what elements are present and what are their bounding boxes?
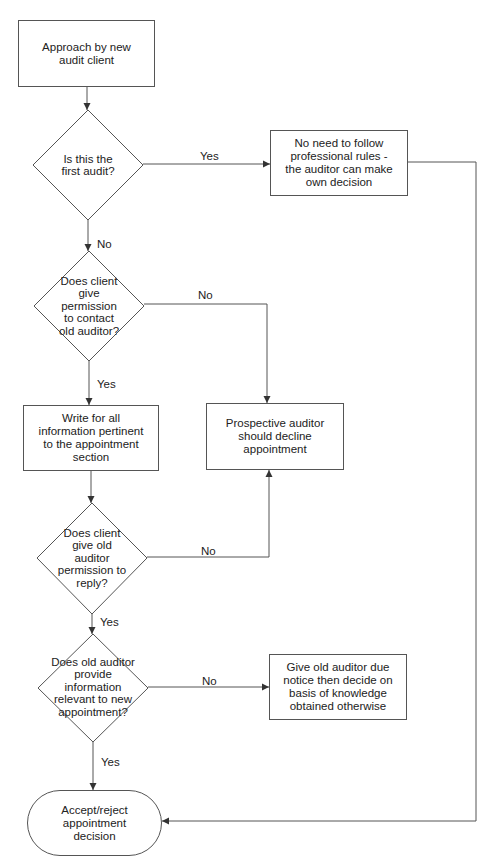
edge-label-provide-info-yes: Yes [101, 756, 120, 768]
decline-box: Prospective auditor should decline appoi… [206, 403, 344, 470]
decline-label: Prospective auditor should decline appoi… [220, 417, 330, 456]
start-box: Approach by new audit client [18, 20, 155, 87]
decision-first-audit-label: Is this the first audit? [57, 153, 119, 178]
decision-first-audit: Is this the first audit? [48, 145, 128, 185]
edge-label-permission-contact-yes: Yes [97, 378, 116, 390]
decision-provide-info-label: Does old auditor provide information rel… [45, 656, 141, 719]
write-info-box: Write for all information pertinent to t… [23, 405, 159, 471]
edge-label-permission-reply-no: No [201, 545, 216, 557]
start-label: Approach by new audit client [42, 41, 132, 67]
end-terminal: Accept/reject appointment decision [27, 790, 162, 856]
no-rules-box: No need to follow professional rules - t… [270, 130, 408, 196]
edge-label-first-audit-no: No [97, 238, 112, 250]
give-notice-box: Give old auditor due notice then decide … [269, 654, 407, 720]
decision-permission-reply: Does client give old auditor permission … [47, 528, 137, 588]
decision-permission-contact-label: Does client give permission to contact o… [56, 275, 122, 338]
write-info-label: Write for all information pertinent to t… [34, 412, 148, 464]
give-notice-label: Give old auditor due notice then decide … [280, 661, 396, 713]
decision-provide-info: Does old auditor provide information rel… [43, 654, 143, 720]
edge-label-permission-contact-no: No [198, 289, 213, 301]
decision-permission-contact: Does client give permission to contact o… [49, 271, 129, 341]
edge-label-provide-info-no: No [202, 675, 217, 687]
decision-permission-reply-label: Does client give old auditor permission … [54, 527, 130, 590]
edge-label-permission-reply-yes: Yes [100, 616, 119, 628]
end-label: Accept/reject appointment decision [57, 804, 132, 843]
edge-label-first-audit-yes: Yes [200, 150, 219, 162]
no-rules-label: No need to follow professional rules - t… [281, 137, 397, 189]
